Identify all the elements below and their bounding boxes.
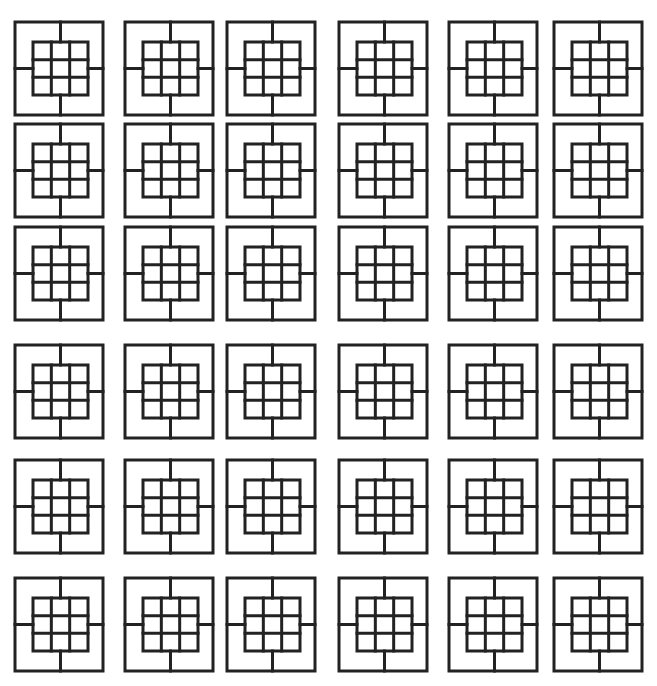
inner-grid-border: [467, 480, 522, 533]
tile-r1-c3: [227, 22, 315, 115]
inner-grid-border: [33, 365, 88, 418]
tile-r4-c5: [449, 345, 537, 438]
inner-grid-border: [33, 598, 88, 651]
inner-grid-border: [143, 247, 198, 300]
inner-grid-border: [467, 42, 522, 95]
inner-grid-border: [467, 598, 522, 651]
inner-grid-border: [357, 480, 412, 533]
tile-r4-c1: [15, 345, 103, 438]
inner-grid-border: [572, 598, 627, 651]
inner-grid-border: [572, 144, 627, 197]
tile-r3-c5: [449, 227, 537, 320]
tile-r6-c1: [15, 578, 103, 671]
inner-grid-border: [357, 144, 412, 197]
inner-grid-border: [572, 42, 627, 95]
tile-r5-c2: [125, 460, 213, 553]
tile-r2-c3: [227, 124, 315, 217]
tile-r3-c6: [554, 227, 642, 320]
inner-grid-border: [357, 365, 412, 418]
inner-grid-border: [143, 480, 198, 533]
tile-r5-c4: [339, 460, 427, 553]
inner-grid-border: [467, 144, 522, 197]
tile-r1-c2: [125, 22, 213, 115]
tile-r3-c1: [15, 227, 103, 320]
inner-grid-border: [143, 598, 198, 651]
inner-grid-border: [357, 598, 412, 651]
inner-grid-border: [245, 144, 300, 197]
inner-grid-border: [33, 42, 88, 95]
inner-grid-border: [33, 480, 88, 533]
tile-r4-c4: [339, 345, 427, 438]
tile-r2-c2: [125, 124, 213, 217]
inner-grid-border: [572, 247, 627, 300]
tile-r2-c1: [15, 124, 103, 217]
inner-grid-border: [143, 365, 198, 418]
inner-grid-border: [143, 42, 198, 95]
inner-grid-border: [245, 598, 300, 651]
tile-r3-c3: [227, 227, 315, 320]
tile-r4-c6: [554, 345, 642, 438]
inner-grid-border: [357, 42, 412, 95]
inner-grid-border: [33, 247, 88, 300]
tile-r5-c1: [15, 460, 103, 553]
inner-grid-border: [245, 42, 300, 95]
tile-r6-c2: [125, 578, 213, 671]
tile-r4-c2: [125, 345, 213, 438]
tile-r6-c5: [449, 578, 537, 671]
tile-r6-c6: [554, 578, 642, 671]
inner-grid-border: [572, 480, 627, 533]
inner-grid-border: [572, 365, 627, 418]
tile-r5-c5: [449, 460, 537, 553]
tile-r1-c5: [449, 22, 537, 115]
tile-r6-c4: [339, 578, 427, 671]
tile-r5-c3: [227, 460, 315, 553]
tile-r5-c6: [554, 460, 642, 553]
inner-grid-border: [467, 365, 522, 418]
tile-r2-c4: [339, 124, 427, 217]
tile-r4-c3: [227, 345, 315, 438]
tile-r3-c2: [125, 227, 213, 320]
inner-grid-border: [357, 247, 412, 300]
tile-r1-c4: [339, 22, 427, 115]
tile-r6-c3: [227, 578, 315, 671]
inner-grid-border: [467, 247, 522, 300]
tile-r2-c5: [449, 124, 537, 217]
inner-grid-border: [245, 480, 300, 533]
inner-grid-border: [33, 144, 88, 197]
tile-r3-c4: [339, 227, 427, 320]
inner-grid-border: [143, 144, 198, 197]
tile-r1-c1: [15, 22, 103, 115]
tile-r1-c6: [554, 22, 642, 115]
inner-grid-border: [245, 247, 300, 300]
tile-r2-c6: [554, 124, 642, 217]
inner-grid-border: [245, 365, 300, 418]
tile-pattern-diagram: [0, 0, 657, 686]
